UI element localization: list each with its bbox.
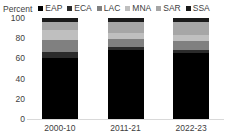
legend-item-mna[interactable]: MNA — [125, 4, 151, 13]
bar-stack — [173, 18, 209, 119]
legend-label: SSA — [193, 4, 210, 13]
y-tick-label: 40 — [1, 74, 25, 83]
x-tick-label: 2000-10 — [30, 123, 90, 133]
bar-group[interactable] — [42, 18, 78, 119]
legend-item-ssa[interactable]: SSA — [186, 4, 210, 13]
y-tick-label: 60 — [1, 54, 25, 63]
bar-segment-eap[interactable] — [173, 53, 209, 119]
bar-segment-mna[interactable] — [42, 30, 78, 40]
bar-group[interactable] — [108, 18, 144, 119]
stacked-column-chart: Percent EAPECALACMNASARSSA 020406080100 … — [0, 0, 227, 140]
y-tick-label: 0 — [1, 115, 25, 124]
legend-item-eap[interactable]: EAP — [38, 4, 62, 13]
legend-label: MNA — [132, 4, 151, 13]
bar-segment-sar[interactable] — [42, 22, 78, 30]
legend-item-lac[interactable]: LAC — [97, 4, 121, 13]
legend-swatch-icon — [156, 6, 161, 11]
bar-segment-lac[interactable] — [42, 40, 78, 52]
x-tick-label: 2022-23 — [161, 123, 221, 133]
legend-label: EAP — [45, 4, 62, 13]
bar-segment-sar[interactable] — [173, 22, 209, 35]
legend-label: SAR — [163, 4, 180, 13]
legend-swatch-icon — [97, 6, 102, 11]
bar-group[interactable] — [173, 18, 209, 119]
y-tick-label: 100 — [1, 14, 25, 23]
legend-items: EAPECALACMNASARSSA — [38, 4, 214, 13]
legend-label: ECA — [74, 4, 91, 13]
y-tick-label: 20 — [1, 94, 25, 103]
legend-swatch-icon — [67, 6, 72, 11]
bar-segment-eap[interactable] — [42, 58, 78, 119]
y-axis-tick-labels: 020406080100 — [0, 18, 25, 119]
bar-segment-eap[interactable] — [108, 50, 144, 119]
legend-label: LAC — [104, 4, 121, 13]
chart-legend: Percent EAPECALACMNASARSSA — [0, 2, 227, 15]
bar-stack — [108, 18, 144, 119]
legend-swatch-icon — [186, 6, 191, 11]
bar-segment-sar[interactable] — [108, 22, 144, 33]
legend-item-eca[interactable]: ECA — [67, 4, 91, 13]
bar-stack — [42, 18, 78, 119]
legend-item-sar[interactable]: SAR — [156, 4, 180, 13]
bar-segment-lac[interactable] — [108, 39, 144, 47]
legend-swatch-icon — [125, 6, 130, 11]
x-tick-label: 2011-21 — [96, 123, 156, 133]
legend-swatch-icon — [38, 6, 43, 11]
plot-area — [27, 18, 224, 119]
bar-segment-lac[interactable] — [173, 41, 209, 50]
y-tick-label: 80 — [1, 34, 25, 43]
x-axis-line — [27, 119, 224, 120]
